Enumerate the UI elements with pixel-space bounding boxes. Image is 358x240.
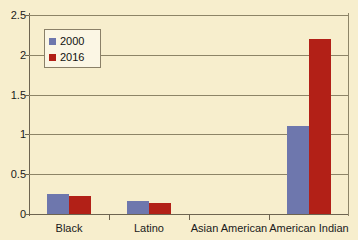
bar-black-2000 xyxy=(47,194,69,214)
bar-black-2016 xyxy=(69,196,91,214)
legend-swatch-2000 xyxy=(49,38,56,45)
y-axis-tick-label: 0.5 xyxy=(2,169,26,180)
bar-latino-2016 xyxy=(149,203,171,214)
gridline xyxy=(29,95,349,96)
y-axis-tick-label: 2.5 xyxy=(2,10,26,21)
x-axis-label-black: Black xyxy=(29,222,109,235)
legend-item: 2016 xyxy=(49,49,96,65)
x-axis-label-american-indian: American Indian xyxy=(269,222,349,235)
legend-item: 2000 xyxy=(49,33,96,49)
y-axis-tick-mark xyxy=(25,214,30,215)
bar-american-indian-2000 xyxy=(287,126,309,214)
bar-latino-2000 xyxy=(127,201,149,214)
y-axis-tick-label: 1 xyxy=(2,129,26,140)
x-axis-tick-mark xyxy=(189,215,190,220)
x-axis-label-asian-american: Asian American xyxy=(189,222,269,235)
legend-swatch-2016 xyxy=(49,54,56,61)
legend-label-2000: 2000 xyxy=(60,36,84,47)
legend: 2000 2016 xyxy=(44,29,101,68)
y-axis-tick-label: 2 xyxy=(2,50,26,61)
x-axis-tick-mark xyxy=(269,215,270,220)
x-axis-tick-mark xyxy=(109,215,110,220)
legend-label-2016: 2016 xyxy=(60,52,84,63)
x-axis-label-latino: Latino xyxy=(109,222,189,235)
y-axis-tick-label: 1.5 xyxy=(2,90,26,101)
bar-chart: 00.511.522.5 BlackLatinoAsian AmericanAm… xyxy=(0,0,358,240)
gridline xyxy=(29,15,349,16)
y-axis-tick-label: 0 xyxy=(2,209,26,220)
bar-american-indian-2016 xyxy=(309,39,331,214)
